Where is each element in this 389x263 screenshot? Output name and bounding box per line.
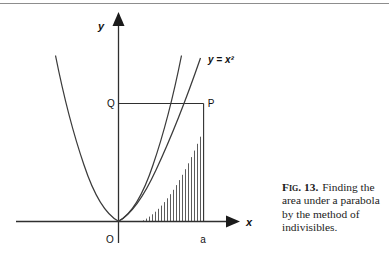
- curve-equation-label: y = x²: [207, 54, 235, 65]
- label-point-p: P: [208, 98, 215, 109]
- x-axis-arrowhead: [226, 216, 240, 228]
- label-point-q: Q: [107, 98, 115, 109]
- x-axis-label: x: [245, 216, 253, 228]
- plot-svg: y x O Q P a y = x²: [0, 0, 265, 263]
- figure-caption: Fig. 13.Finding the area under a parabol…: [282, 181, 386, 235]
- parabola-plot: y x O Q P a y = x²: [0, 0, 265, 263]
- label-origin: O: [106, 234, 114, 245]
- parabola-left-branch: [37, 58, 119, 221]
- y-axis-label: y: [97, 20, 105, 32]
- label-x-value-a: a: [200, 234, 206, 245]
- y-axis-arrowhead: [113, 12, 125, 26]
- caption-fig-number: 13.: [304, 181, 318, 193]
- caption-fig-word: Fig.: [282, 181, 301, 193]
- figure-container: y x O Q P a y = x² Fig. 13.Finding the a…: [0, 0, 389, 263]
